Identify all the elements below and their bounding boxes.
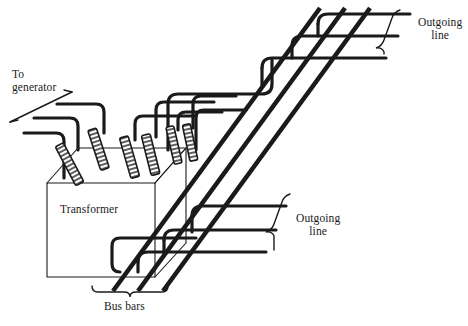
label-bus-bars: Bus bars: [104, 300, 145, 313]
outgoing-top-brace: [376, 10, 400, 54]
label-outgoing-line-top: Outgoing line: [418, 16, 462, 42]
upper-loop-group: [168, 60, 272, 150]
loop-conductor-1: [168, 60, 272, 150]
figure-canvas: To generator Outgoing line Outgoing line…: [0, 0, 468, 326]
outgoing-bottom-conductor-3: [138, 252, 266, 262]
label-outgoing-line-bottom: Outgoing line: [296, 212, 340, 238]
bushing-3: [119, 136, 139, 179]
outgoing-bottom-conductor-1: [192, 206, 286, 216]
substation-diagram: [0, 0, 468, 326]
outgoing-bottom-brace: [266, 194, 290, 250]
bushing-2: [88, 128, 110, 171]
outgoing-top-group: [262, 14, 410, 86]
bushing-4: [141, 134, 160, 176]
label-transformer: Transformer: [60, 203, 118, 216]
bus-bars-brace: [92, 286, 168, 297]
label-to-generator: To generator: [12, 68, 56, 94]
